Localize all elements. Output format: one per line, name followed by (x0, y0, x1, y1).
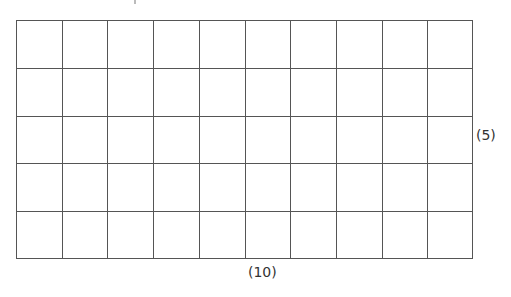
grid-diagram (16, 20, 473, 259)
grid-lines (16, 20, 473, 259)
column-count-label: (10) (248, 264, 277, 280)
top-artifact-mark (134, 0, 136, 4)
row-count-label: (5) (476, 127, 496, 143)
